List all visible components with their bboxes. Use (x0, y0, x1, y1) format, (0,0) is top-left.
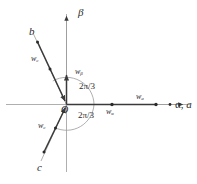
vector-label-w-alpha: wα (106, 108, 114, 117)
angle-label-lower: 2π/3 (78, 111, 94, 120)
w-c-subscript: c (43, 125, 45, 130)
dot-w-c-mid (54, 127, 57, 130)
vector-label-w-beta: wβ (75, 68, 83, 77)
w-a-subscript: a (141, 96, 143, 101)
c-axis-label: c (37, 162, 42, 173)
vector-label-w-a: wa (136, 93, 144, 102)
dot-w-b-mid (49, 68, 52, 71)
angle-label-upper: 2π/3 (79, 82, 95, 91)
vector-label-w-c: wc (38, 122, 46, 131)
a-symbol: a (186, 98, 192, 110)
beta-axis-label: β (78, 7, 83, 18)
dot-c-axis-tip (43, 151, 46, 154)
dot-w-a-tip (154, 103, 157, 106)
vector-label-w-b: wwc (31, 55, 39, 64)
origin-label: O (61, 105, 68, 115)
alpha-symbol: α, (175, 98, 186, 110)
alpha-a-axis-label: α, a (175, 99, 192, 110)
dot-alpha-axis-end (169, 103, 172, 106)
dot-w-alpha-tip (110, 103, 113, 106)
w-beta-subscript: β (80, 71, 82, 76)
w-b-subscript: c (36, 58, 38, 63)
b-axis-label: b (29, 26, 35, 37)
vector-w-b (38, 42, 66, 101)
dot-b-axis-tip (36, 41, 39, 44)
w-alpha-subscript: α (111, 111, 114, 116)
vector-diagram-figure: β α, a b c O wwc wβ wα wa wc 2π/3 2π/3 (0, 0, 197, 184)
